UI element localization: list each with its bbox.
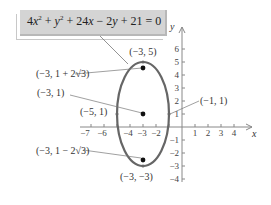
bottom-vertex-point bbox=[142, 165, 145, 168]
x-tick-label: −7 bbox=[80, 128, 90, 138]
y-tick-label: 2 bbox=[175, 96, 180, 106]
ellipse-graph: −7 −6 −4 −3 −2 1 2 3 4 x 6 5 4 3 2 1 bbox=[0, 0, 271, 205]
right-covertex-label: (−1, 1) bbox=[200, 95, 227, 107]
left-covertex-label: (−5, 1) bbox=[80, 106, 107, 118]
y-tick-label: 5 bbox=[175, 57, 180, 67]
bottom-vertex-label: (−3, −3) bbox=[120, 171, 153, 183]
y-axis: 6 5 4 3 2 1 −1 −2 −3 −4 y bbox=[169, 21, 185, 184]
top-vertex-label: (−3, 5) bbox=[129, 46, 156, 58]
left-covertex-point bbox=[116, 113, 119, 116]
y-tick-label: −1 bbox=[169, 135, 179, 145]
top-vertex-point bbox=[142, 61, 145, 64]
x-tick-label: 4 bbox=[232, 128, 237, 138]
y-tick-label: −4 bbox=[169, 174, 179, 184]
y-tick-label: −3 bbox=[169, 161, 179, 171]
lower-focus-label: (−3, 1 − 2√3) bbox=[36, 145, 89, 157]
x-tick-label: 1 bbox=[193, 128, 198, 138]
x-tick-label: −4 bbox=[123, 128, 133, 138]
x-axis-label: x bbox=[251, 128, 257, 139]
y-tick-label: 4 bbox=[175, 70, 180, 80]
center-point bbox=[141, 112, 146, 117]
lower-focus-point bbox=[141, 158, 146, 163]
x-tick-label: −2 bbox=[151, 128, 161, 138]
center-label: (−3, 1) bbox=[37, 87, 64, 99]
x-tick-label: −6 bbox=[97, 128, 107, 138]
y-tick-label: 3 bbox=[175, 83, 180, 93]
y-tick-label: 6 bbox=[175, 44, 180, 54]
x-tick-label: 2 bbox=[206, 128, 211, 138]
y-tick-label: −2 bbox=[169, 148, 179, 158]
x-tick-label: −3 bbox=[137, 128, 147, 138]
y-axis-label: y bbox=[169, 21, 175, 32]
upper-focus-label: (−3, 1 + 2√3) bbox=[36, 68, 89, 80]
upper-focus-point bbox=[141, 66, 146, 71]
right-covertex-point bbox=[168, 113, 171, 116]
equation-leader-line bbox=[100, 36, 128, 64]
x-tick-label: 3 bbox=[219, 128, 224, 138]
